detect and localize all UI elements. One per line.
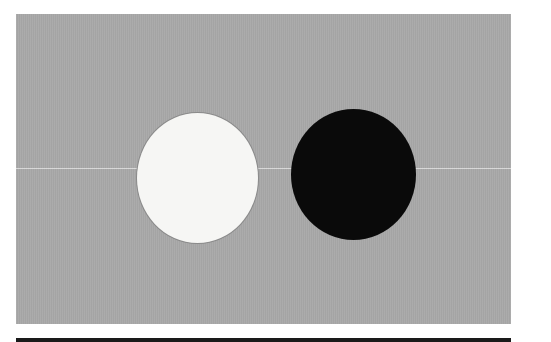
white-circle [137, 113, 258, 243]
scan-line [16, 168, 511, 169]
black-circle [291, 109, 416, 240]
bottom-rule [16, 338, 511, 342]
figure-panel [16, 14, 511, 324]
